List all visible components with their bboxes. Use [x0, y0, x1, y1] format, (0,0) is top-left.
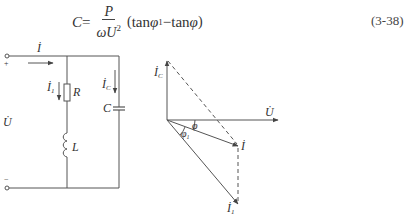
u-phasor-label: U̇ — [265, 105, 275, 119]
i-phasor-label: İ — [240, 139, 246, 153]
resistor — [64, 84, 70, 101]
inductor-label: L — [71, 140, 79, 154]
phi1-angle-label: φ1 — [181, 128, 190, 140]
capacitor-label: C — [103, 101, 112, 115]
plus-sign: + — [4, 59, 9, 68]
diagram-canvas: İ + − U̇ İ1 R L İC C İC U̇ İ İ1 φ φ1 — [0, 0, 414, 214]
resistor-label: R — [72, 85, 81, 99]
circuit-diagram — [5, 54, 125, 190]
phi-angle-label: φ — [192, 120, 198, 131]
capacitor-current-label: İC — [101, 77, 111, 92]
branch-current-label: İ1 — [46, 80, 55, 95]
bottom-terminal — [5, 186, 9, 190]
minus-sign: − — [4, 175, 9, 184]
total-current-label: İ — [36, 41, 42, 55]
dashed-ic-to-i — [168, 61, 237, 144]
top-terminal — [5, 54, 9, 58]
i1-phasor-label: İ1 — [226, 201, 235, 214]
ic-phasor-label: İC — [153, 65, 163, 80]
voltage-label: U̇ — [3, 115, 13, 129]
inductor-coil — [63, 133, 67, 157]
